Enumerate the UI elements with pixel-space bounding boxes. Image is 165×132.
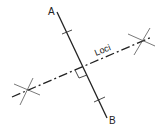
point-a-label: A — [48, 6, 55, 17]
perpendicular-bisector-diagram: A B Loci — [0, 0, 165, 132]
construction-arc-left — [14, 78, 40, 105]
segment-ab — [57, 12, 107, 118]
point-b-label: B — [109, 115, 116, 126]
locus-line — [12, 37, 152, 97]
